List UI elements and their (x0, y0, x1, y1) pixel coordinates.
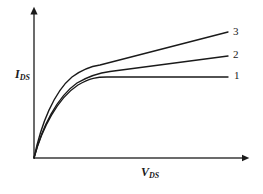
x-axis-label-sub: DS (149, 171, 159, 180)
x-axis-label: VDS (141, 165, 159, 180)
curve-2 (34, 56, 228, 158)
curve-label-1: 1 (234, 69, 240, 81)
curve-label-3: 3 (233, 25, 239, 37)
curve-3 (34, 32, 228, 158)
y-axis-label: IDS (15, 67, 30, 82)
y-axis-label-main: I (15, 67, 20, 81)
x-axis-label-main: V (141, 165, 149, 179)
curve-label-2: 2 (233, 48, 239, 60)
curve-1 (34, 77, 228, 158)
plot-canvas (0, 0, 263, 194)
figure-container: IDS VDS 3 2 1 (0, 0, 263, 194)
y-axis-label-sub: DS (20, 73, 30, 82)
